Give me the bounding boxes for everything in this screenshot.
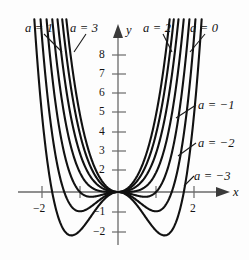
y-tick-label-4: 4 — [99, 126, 105, 138]
x-axis-arrowhead — [216, 187, 230, 197]
curve-label-am1: a = −1 — [198, 99, 235, 112]
curve-label-a3: a = 3 — [70, 22, 98, 35]
y-tick-label-neg2: −2 — [93, 226, 105, 238]
y-tick-label-6: 6 — [99, 87, 105, 99]
y-axis-arrowhead — [113, 24, 123, 38]
curve-label-a1: a = 1 — [25, 22, 53, 35]
x-tick-label-2: 2 — [190, 203, 196, 215]
y-tick-label-2: 2 — [99, 164, 105, 176]
curve-label-a2: a = 2 — [143, 22, 171, 35]
y-tick-label-8: 8 — [99, 49, 105, 61]
y-tick-label-5: 5 — [99, 106, 105, 118]
y-tick-label-3: 3 — [99, 145, 105, 157]
leader-a3 — [74, 34, 86, 52]
plot-canvas — [0, 0, 249, 260]
curve-label-am2: a = −2 — [198, 137, 235, 150]
y-axis-label: y — [126, 24, 132, 37]
x-axis-label: x — [233, 186, 239, 199]
curve-label-a0: a = 0 — [190, 22, 218, 35]
x-tick-label-neg2: −2 — [33, 203, 45, 215]
figure-quartic-family: a = 1 a = 3 a = 2 a = 0 a = −1 a = −2 a … — [0, 0, 249, 260]
y-tick-marks — [112, 55, 126, 232]
y-tick-label-7: 7 — [99, 68, 105, 80]
y-tick-label-neg1: −1 — [93, 206, 105, 218]
leader-a0 — [190, 34, 205, 52]
curve-label-am3: a = −3 — [194, 170, 231, 183]
